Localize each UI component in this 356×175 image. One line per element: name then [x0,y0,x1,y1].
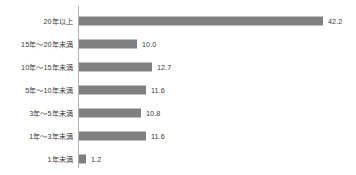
table-row: 15年～20年未満 10.0 [0,32,356,55]
bar[interactable] [79,85,146,94]
bar[interactable] [79,39,137,48]
table-row: 5年～10年未満 11.6 [0,78,356,101]
value-label: 42.2 [328,16,342,25]
value-label: 12.7 [157,62,171,71]
table-row: 3年～5年未満 10.8 [0,101,356,124]
value-label: 11.6 [151,85,165,94]
bar-group: 42.2 [79,16,342,25]
bar-group: 11.6 [79,85,165,94]
category-label: 1年～3年未満 [0,131,73,140]
category-label: 10年～15年未満 [0,62,73,71]
bar[interactable] [79,62,152,71]
bar-group: 10.8 [79,108,160,117]
bar-chart: 20年以上 42.2 15年～20年未満 10.0 10年～15年未満 12.7… [0,0,356,175]
bar[interactable] [79,154,86,163]
table-row: 1年～3年未満 11.6 [0,124,356,147]
bar-group: 12.7 [79,62,171,71]
category-label: 20年以上 [0,16,73,25]
category-label: 15年～20年未満 [0,39,73,48]
bar[interactable] [79,16,323,25]
value-label: 1.2 [91,154,101,163]
category-label: 1年未満 [0,154,73,163]
table-row: 1年未満 1.2 [0,147,356,170]
category-label: 3年～5年未満 [0,108,73,117]
category-label: 5年～10年未満 [0,85,73,94]
bar-group: 1.2 [79,154,101,163]
bar-group: 11.6 [79,131,165,140]
table-row: 20年以上 42.2 [0,9,356,32]
value-label: 10.8 [146,108,160,117]
bar[interactable] [79,131,146,140]
value-label: 11.6 [151,131,165,140]
bar-group: 10.0 [79,39,156,48]
value-label: 10.0 [142,39,156,48]
bar[interactable] [79,108,141,117]
table-row: 10年～15年未満 12.7 [0,55,356,78]
